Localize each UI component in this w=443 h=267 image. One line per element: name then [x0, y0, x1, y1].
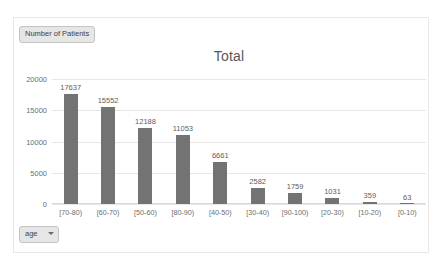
bar-data-label: 6661 [212, 151, 229, 160]
category-axis-tick-label: [70-80) [59, 208, 82, 217]
bar-data-label: 1031 [324, 187, 341, 196]
category-axis-tick-label: [50-60) [134, 208, 157, 217]
value-axis-tick-label: 10000 [26, 137, 47, 146]
pivot-field-label: age [25, 229, 38, 238]
bar[interactable] [64, 94, 78, 204]
bar[interactable] [176, 135, 190, 204]
bar-slot: 6661[40-50) [202, 79, 239, 204]
bar-slot: 359[10-20) [351, 79, 388, 204]
pivot-field-button-number-of-patients[interactable]: Number of Patients [19, 26, 95, 43]
gridline [52, 204, 426, 205]
bar-data-label: 15552 [98, 96, 119, 105]
bar-data-label: 1759 [287, 182, 304, 191]
bar-slot: 2582[30-40) [239, 79, 276, 204]
bar[interactable] [325, 198, 339, 204]
bar-data-label: 11053 [173, 124, 193, 133]
bar[interactable] [138, 128, 152, 204]
bar[interactable] [363, 202, 377, 204]
category-axis-tick-label: [60-70) [97, 208, 120, 217]
category-axis-tick-label: [40-50) [209, 208, 232, 217]
bar-slot: 11053[80-90) [164, 79, 201, 204]
value-axis-tick-label: 15000 [26, 106, 47, 115]
bar[interactable] [213, 162, 227, 204]
bar-slot: 17637[70-80) [52, 79, 89, 204]
category-axis-tick-label: [10-20) [358, 208, 381, 217]
bar-data-label: 2582 [249, 177, 266, 186]
bar-slot: 15552[60-70) [89, 79, 126, 204]
value-axis-tick-label: 20000 [26, 75, 47, 84]
bar-slot: 12188[50-60) [127, 79, 164, 204]
chart-container[interactable]: Number of Patients Total 050001000015000… [13, 17, 429, 253]
bar-data-label: 17637 [60, 83, 81, 92]
category-axis-tick-label: [30-40) [246, 208, 269, 217]
chart-title: Total [14, 48, 428, 64]
pivot-field-button-age[interactable]: age [19, 226, 59, 243]
bar-slot: 1031[20-30) [314, 79, 351, 204]
category-axis-tick-label: [80-90) [171, 208, 194, 217]
bar[interactable] [400, 203, 414, 204]
bar[interactable] [101, 107, 115, 204]
value-axis-tick-label: 0 [43, 200, 47, 209]
value-axis-tick-label: 5000 [30, 168, 47, 177]
bar[interactable] [288, 193, 302, 204]
plot-area: 05000100001500020000 17637[70-80)15552[6… [52, 79, 426, 204]
category-axis-tick-label: [20-30) [321, 208, 344, 217]
bar-data-label: 359 [364, 191, 377, 200]
category-axis-tick-label: [0-10) [398, 208, 417, 217]
category-axis-tick-label: [90-100) [282, 208, 309, 217]
bar-slot: 63[0-10) [389, 79, 426, 204]
bar-data-label: 12188 [135, 117, 156, 126]
chevron-down-icon[interactable] [48, 232, 54, 235]
bar-slot: 1759[90-100) [276, 79, 313, 204]
bar[interactable] [251, 188, 265, 204]
bar-data-label: 63 [403, 193, 411, 202]
pivot-field-label: Number of Patients [25, 29, 89, 38]
